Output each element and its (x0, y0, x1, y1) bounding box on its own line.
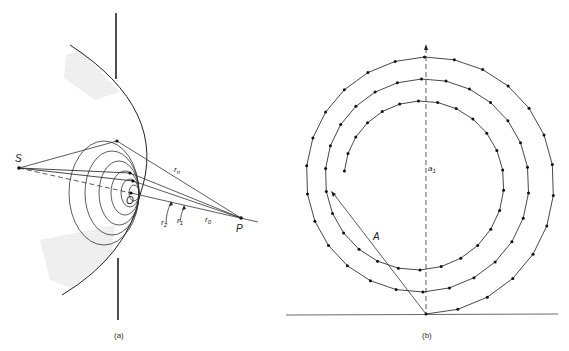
label-r2: r2 (161, 218, 168, 228)
label-r0: r0 (205, 215, 212, 225)
baseline (286, 314, 558, 315)
vibration-spiral (307, 57, 554, 314)
caption-b: (b) (422, 331, 432, 340)
spiral-points (305, 56, 555, 316)
label-a: A (372, 231, 380, 242)
label-rn: rn (174, 165, 181, 175)
label-r1: r1 (177, 216, 183, 226)
label-p: P (236, 223, 243, 234)
figure: S O P rn r2 r1 r0 (a) a1 A (b) (0, 0, 569, 351)
panel-a: S O P rn r2 r1 r0 (a) (15, 13, 258, 340)
label-o: O (126, 195, 134, 206)
label-s: S (15, 153, 22, 164)
point-p (239, 216, 243, 220)
shaded-region-bottom (40, 225, 115, 288)
point-s (17, 166, 21, 170)
label-a1: a1 (428, 164, 436, 174)
vector-a (333, 193, 426, 314)
shaded-region-top (64, 50, 120, 100)
panel-b: a1 A (b) (286, 44, 558, 340)
caption-a: (a) (114, 331, 124, 340)
